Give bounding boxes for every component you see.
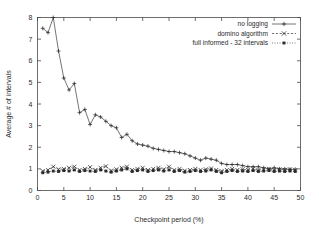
- legend-label-2: full informed - 32 intervals: [193, 39, 269, 46]
- x-tick-label: 5: [62, 194, 66, 201]
- y-tick-label: 2: [29, 144, 33, 151]
- legend-label-0: no logging: [238, 20, 269, 28]
- y-tick-label: 6: [29, 57, 33, 64]
- x-tick-label: 50: [297, 194, 305, 201]
- y-tick-label: 1: [29, 165, 33, 172]
- y-axis-title: Average # of intervals: [5, 70, 13, 138]
- y-tick-label: 7: [29, 36, 33, 43]
- x-tick-label: 30: [191, 194, 199, 201]
- x-tick-label: 40: [244, 194, 252, 201]
- x-tick-label: 25: [165, 194, 173, 201]
- chart-figure: 05101520253035404550 012345678 no loggin…: [0, 0, 319, 232]
- y-tick-label: 5: [29, 79, 33, 86]
- x-axis-title: Checkpoint period (%): [134, 216, 203, 224]
- y-tick-label: 3: [29, 122, 33, 129]
- y-axis-tick-labels: 012345678: [29, 14, 33, 194]
- legend-square-icon: [283, 42, 286, 45]
- y-tick-label: 8: [29, 14, 33, 21]
- line-chart: 05101520253035404550 012345678 no loggin…: [0, 0, 319, 232]
- x-tick-label: 15: [113, 194, 121, 201]
- x-tick-label: 45: [270, 194, 278, 201]
- x-tick-label: 10: [86, 194, 94, 201]
- x-tick-label: 0: [36, 194, 40, 201]
- x-tick-label: 20: [139, 194, 147, 201]
- x-tick-label: 35: [218, 194, 226, 201]
- y-tick-label: 4: [29, 101, 33, 108]
- legend-label-1: domino algorithm: [217, 30, 268, 38]
- y-tick-label: 0: [29, 187, 33, 194]
